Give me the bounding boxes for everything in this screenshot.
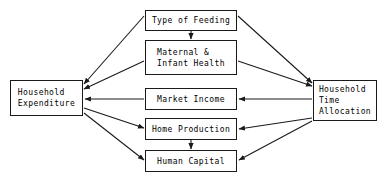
node-household-expenditure[interactable]: Household Expenditure — [10, 80, 83, 116]
node-label: Household Time Allocation — [319, 84, 371, 117]
node-label: Home Production — [152, 124, 230, 135]
node-home-production[interactable]: Home Production — [145, 118, 237, 140]
node-label: Human Capital — [157, 156, 225, 167]
node-label: Maternal & Infant Health — [157, 47, 225, 69]
node-label: Household Expenditure — [18, 87, 75, 109]
edge-maternal-to-expenditure — [84, 61, 144, 89]
diagram-canvas: Type of Feeding Maternal & Infant Health… — [0, 0, 384, 181]
edge-expenditure-to-human — [84, 113, 144, 160]
node-human-capital[interactable]: Human Capital — [145, 150, 237, 172]
node-maternal-infant-health[interactable]: Maternal & Infant Health — [145, 40, 237, 75]
node-label: Type of Feeding — [152, 15, 230, 26]
node-type-of-feeding[interactable]: Type of Feeding — [145, 10, 237, 31]
edge-feeding-to-expenditure — [84, 16, 144, 84]
node-market-income[interactable]: Market Income — [145, 88, 237, 110]
edge-expenditure-to-home — [84, 108, 144, 128]
node-household-time-allocation[interactable]: Household Time Allocation — [313, 80, 377, 121]
node-label: Market Income — [157, 94, 225, 105]
